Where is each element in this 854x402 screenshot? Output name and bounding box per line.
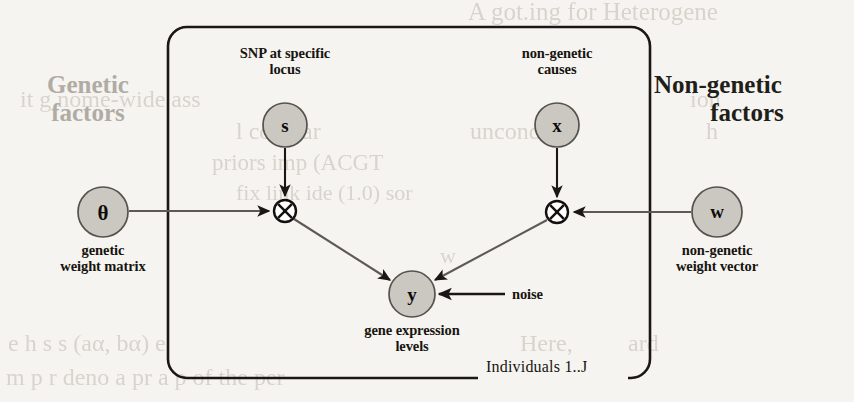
caption-genetic-weight-line1: genetic (23, 242, 183, 258)
side-label-nongenetic-line2: factors (654, 99, 840, 126)
node-label-theta: θ (83, 201, 123, 226)
caption-noise: noise (512, 286, 592, 302)
side-label-nongenetic-line1: Non-genetic (654, 71, 854, 98)
edge-mul-nongenetic-to-y (435, 220, 547, 280)
caption-gene-expression-line1: gene expression (317, 322, 507, 338)
caption-nongenetic-weight-line1: non-genetic (637, 242, 797, 258)
caption-nongenetic-causes-line2: causes (467, 61, 647, 77)
operator-mul-nongenetic[interactable] (546, 201, 568, 223)
node-label-s: s (265, 115, 305, 137)
caption-nongenetic-causes-line1: non-genetic (467, 45, 647, 61)
operator-mul-genetic[interactable] (274, 200, 296, 222)
caption-snp-line1: SNP at specific (185, 45, 385, 61)
figure-canvas: A got.ing for Heterogeneit g nome-wide a… (0, 0, 854, 402)
caption-nongenetic-weight-line2: weight vector (637, 258, 797, 274)
node-label-y: y (392, 284, 432, 306)
caption-snp-line2: locus (185, 61, 385, 77)
plate-label: Individuals 1..J (486, 358, 626, 376)
caption-genetic-weight-line2: weight matrix (23, 258, 183, 274)
edge-mul-genetic-to-y (294, 219, 390, 280)
node-label-w: w (697, 201, 737, 223)
side-label-genetic-line2: factors (8, 99, 168, 126)
node-label-x: x (537, 115, 577, 137)
caption-gene-expression-line2: levels (317, 338, 507, 354)
side-label-genetic-line1: Genetic (8, 71, 168, 98)
